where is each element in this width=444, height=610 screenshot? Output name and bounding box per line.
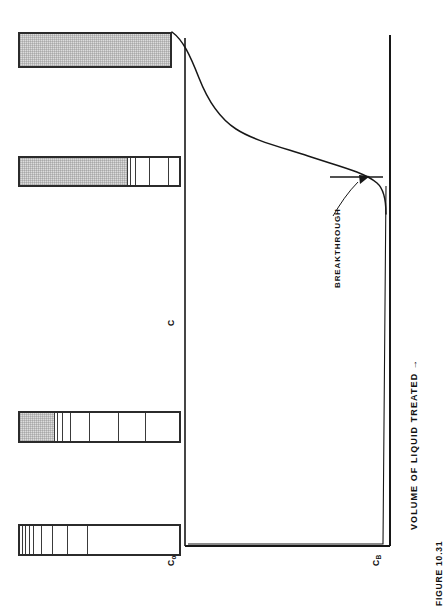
bed-segment-zone — [53, 526, 67, 554]
bed-segment-saturated — [20, 158, 128, 185]
bed-segment-saturated — [20, 413, 55, 441]
axis-tick-label-c0: Co — [166, 555, 176, 566]
bed-segment-saturated — [20, 34, 170, 66]
bed-segment-zone — [71, 413, 90, 441]
bed-segment-zone — [42, 526, 53, 554]
figure-caption: FIGURE 10.31 — [434, 541, 444, 606]
baseline-cb — [188, 186, 386, 544]
bed-segment-zone — [146, 413, 179, 441]
bed-diagram-stage-3 — [18, 411, 181, 443]
axis-title-volume: VOLUME OF LIQUID TREATED → — [409, 359, 419, 530]
bed-segment-zone — [119, 413, 146, 441]
bed-segment-zone — [90, 413, 119, 441]
bed-segment-zone — [34, 526, 42, 554]
axis-tick-label-cb: CB — [371, 554, 381, 566]
bed-diagram-stage-2 — [18, 156, 181, 187]
bed-segment-zone — [169, 158, 179, 185]
bed-diagram-stage-4 — [18, 524, 181, 556]
bed-segment-zone — [63, 413, 71, 441]
annotation-breakthrough: BREAKTHROUGH — [333, 208, 342, 288]
bed-segment-zone — [68, 526, 89, 554]
axis-volume — [185, 35, 390, 546]
axis-arrow-icon: → — [409, 359, 419, 369]
breakthrough-marker — [330, 175, 383, 184]
bed-segment-zone — [150, 158, 169, 185]
breakthrough-curve — [172, 32, 386, 214]
bed-segment-zone — [88, 526, 179, 554]
axis-tick-label-c: C — [166, 319, 176, 326]
bed-diagram-stage-1 — [18, 32, 172, 68]
bed-segment-zone — [136, 158, 150, 185]
